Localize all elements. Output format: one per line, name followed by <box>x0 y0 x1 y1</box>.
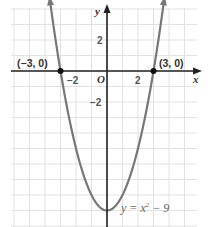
axes <box>11 4 202 227</box>
grid <box>11 8 197 227</box>
y-tick-label: −2 <box>90 97 102 108</box>
curve-arrow <box>160 0 167 6</box>
origin-label: O <box>97 73 105 85</box>
curve-arrow <box>47 0 54 6</box>
y-tick-label: 2 <box>97 35 103 46</box>
x-intercept-point <box>151 68 157 74</box>
x-tick-label: 2 <box>135 75 141 86</box>
equation-label: y = x2 − 9 <box>120 201 169 215</box>
x-axis-label: x <box>192 73 199 85</box>
point-label: (3, 0) <box>159 57 184 69</box>
x-intercept-point <box>58 68 64 74</box>
equation-lhs: y = x <box>120 201 146 215</box>
point-label: (−3, 0) <box>17 57 48 69</box>
y-axis-label: y <box>93 5 100 17</box>
parabola-chart: x y O −2 2 2 −2 (−3, 0) (3, 0) y = x2 − … <box>0 0 208 227</box>
x-tick-label: −2 <box>67 75 79 86</box>
equation-rhs: − 9 <box>149 201 169 215</box>
